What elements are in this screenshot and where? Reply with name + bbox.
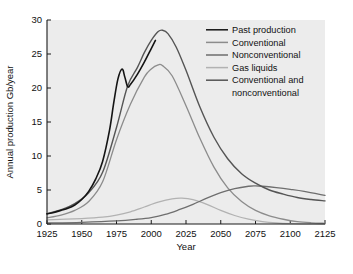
x-tick-label: 1975 xyxy=(106,228,127,239)
x-tick-label: 1950 xyxy=(71,228,92,239)
y-tick-label: 20 xyxy=(31,82,42,93)
production-line-chart: 192519501975200020252050207521002125 051… xyxy=(0,0,353,274)
y-tick-label: 30 xyxy=(31,14,42,25)
x-axis-title: Year xyxy=(176,241,195,252)
chart-figure: 192519501975200020252050207521002125 051… xyxy=(0,0,353,274)
y-tick-label: 5 xyxy=(37,184,42,195)
y-tick-label: 0 xyxy=(37,218,42,229)
legend-label: nonconventional xyxy=(232,88,299,98)
y-tick-label: 25 xyxy=(31,48,42,59)
legend-label: Nonconventional xyxy=(232,50,300,60)
y-tick-labels: 051015202530 xyxy=(31,14,42,229)
x-tick-label: 2125 xyxy=(314,228,335,239)
x-tick-label: 2050 xyxy=(210,228,231,239)
x-tick-label: 2075 xyxy=(245,228,266,239)
y-axis-title: Annual production Gb/year xyxy=(4,65,15,178)
y-tick-label: 10 xyxy=(31,150,42,161)
x-tick-label: 2025 xyxy=(175,228,196,239)
x-tick-labels: 192519501975200020252050207521002125 xyxy=(36,228,335,239)
x-tick-label: 2100 xyxy=(280,228,301,239)
legend-label: Past production xyxy=(232,25,296,35)
legend-label: Conventional xyxy=(232,38,286,48)
y-tick-label: 15 xyxy=(31,116,42,127)
legend-label: Gas liquids xyxy=(232,63,278,73)
legend-label: Conventional and xyxy=(232,75,304,85)
x-tick-label: 2000 xyxy=(141,228,162,239)
